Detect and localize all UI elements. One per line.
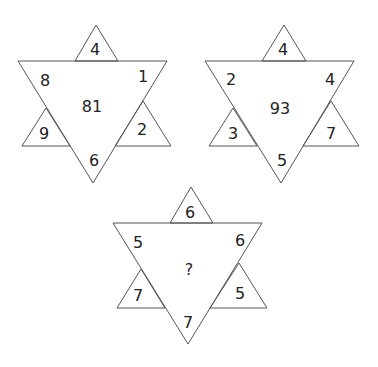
star-1-upper-right-value: 1 [138,67,148,86]
star-1-top-value: 4 [90,40,100,59]
star-2-lower-left-value: 3 [228,124,238,143]
star-3-lower-right-value: 5 [235,284,245,303]
star-1-center-value: 81 [82,97,102,116]
star-3-bottom-value: 7 [183,313,193,332]
star-2-bottom-value: 5 [277,151,287,170]
star-2-top-value: 4 [278,40,288,59]
star-3: 6 5 6 7 5 7 ? [113,187,267,344]
star-2-upper-right-value: 4 [325,70,335,89]
star-1-bottom-value: 6 [89,151,99,170]
star-2-upper-left-value: 2 [226,70,236,89]
star-3-upper-right-value: 6 [235,231,245,250]
puzzle-canvas: 4 8 1 9 2 6 81 4 2 4 3 7 5 93 6 5 6 7 5 … [0,0,378,367]
star-2-center-value: 93 [270,99,290,118]
star-3-top-value: 6 [185,203,195,222]
star-2-lower-right-value: 7 [326,124,336,143]
star-1-lower-right-value: 2 [137,120,147,139]
star-1: 4 8 1 9 2 6 81 [18,25,171,183]
star-3-center-value: ? [185,260,194,279]
star-2: 4 2 4 3 7 5 93 [205,25,359,183]
star-1-upper-left-value: 8 [40,71,50,90]
star-1-lower-left-value: 9 [39,124,49,143]
star-3-lower-left-value: 7 [133,286,143,305]
star-3-upper-left-value: 5 [133,233,143,252]
